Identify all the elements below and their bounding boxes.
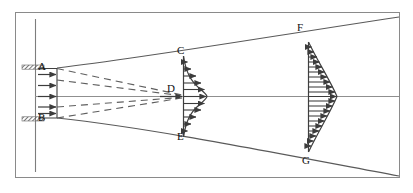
diagram-canvas: A B C D E F G <box>0 0 413 193</box>
label-b: B <box>38 112 45 123</box>
label-d: D <box>167 83 175 94</box>
potential-core-dashed-cone <box>57 69 182 119</box>
jet-envelope-lower <box>57 118 399 176</box>
label-c: C <box>177 45 184 56</box>
label-f: F <box>297 22 303 33</box>
diagram-border <box>16 13 400 178</box>
jet-envelope-upper <box>57 17 399 68</box>
label-g: G <box>302 155 310 166</box>
nozzle-exit-velocity-arrows <box>38 75 56 114</box>
label-e: E <box>177 131 184 142</box>
velocity-arrows-cde <box>184 62 207 131</box>
velocity-arrows-fg <box>309 47 337 146</box>
free-jet-diagram <box>0 0 413 193</box>
label-a: A <box>38 61 46 72</box>
